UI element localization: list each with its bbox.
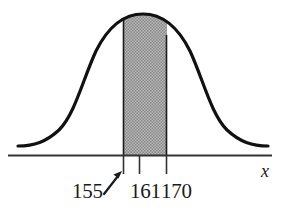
x-axis-label: x — [261, 162, 269, 180]
tick-label-155: 155 — [72, 181, 103, 202]
callout-arrow-155 — [104, 171, 122, 194]
tick-label-161: 161 — [130, 181, 161, 202]
normal-curve-figure: 155 161 170 x — [0, 0, 290, 218]
tick-label-170: 170 — [161, 181, 192, 202]
shaded-area-region — [123, 10, 167, 156]
